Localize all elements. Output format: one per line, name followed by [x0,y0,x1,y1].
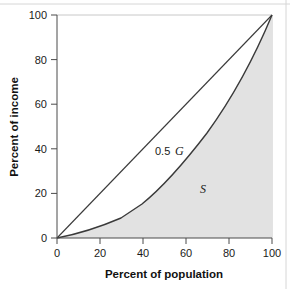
x-tick-label-20: 20 [94,247,106,259]
y-axis-title: Percent of income [8,77,20,177]
x-tick-labels: 0 20 40 60 80 100 [54,247,281,259]
y-axis-ticks [51,15,57,238]
x-tick-label-100: 100 [263,247,281,259]
x-tick-label-0: 0 [54,247,60,259]
y-tick-labels: 0 20 40 60 80 100 [29,9,47,244]
chart-figure: 0 20 40 60 80 100 0 20 40 60 80 100 0.5 … [0,0,290,289]
annotation-area-s: S [200,182,206,196]
y-tick-label-60: 60 [35,98,47,110]
y-tick-label-100: 100 [29,9,47,21]
annotation-half-gini: 0.5 G [155,144,184,158]
x-tick-label-60: 60 [180,247,192,259]
annotation-half-gini-symbol: G [175,144,184,158]
x-axis-title: Percent of population [105,268,223,280]
x-tick-label-40: 40 [137,247,149,259]
x-axis-ticks [57,238,272,244]
lorenz-curve-chart: 0 20 40 60 80 100 0 20 40 60 80 100 0.5 … [0,0,290,289]
y-tick-label-0: 0 [41,232,47,244]
y-tick-label-20: 20 [35,187,47,199]
x-tick-label-80: 80 [223,247,235,259]
y-tick-label-40: 40 [35,143,47,155]
y-tick-label-80: 80 [35,54,47,66]
annotation-half-gini-number: 0.5 [155,145,170,157]
